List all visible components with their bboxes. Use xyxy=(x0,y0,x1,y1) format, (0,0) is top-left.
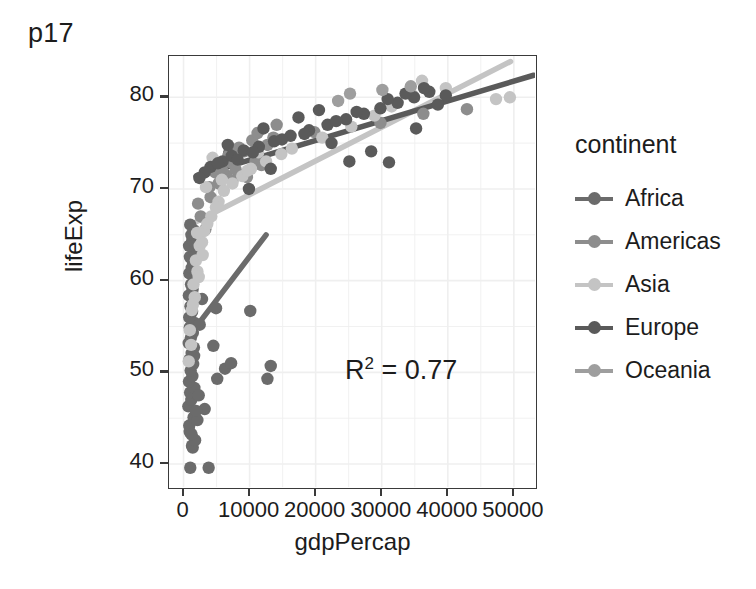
data-point-asia xyxy=(216,174,228,186)
data-point-europe xyxy=(330,115,342,127)
plot-panel xyxy=(168,55,537,489)
data-point-asia xyxy=(191,227,203,239)
x-axis-tick-mark xyxy=(380,488,382,496)
x-axis-tick-label: 10000 xyxy=(218,497,279,523)
data-point-asia xyxy=(210,201,222,213)
data-point-americas xyxy=(192,197,204,209)
y-axis-tick-label: 60 xyxy=(92,265,154,291)
x-axis-title: gdpPercap xyxy=(168,528,537,556)
legend-item-europe[interactable]: Europe xyxy=(575,306,750,349)
data-point-europe xyxy=(350,106,362,118)
x-axis-tick-label: 30000 xyxy=(350,497,411,523)
legend: continent AfricaAmericasAsiaEuropeOceani… xyxy=(575,130,750,392)
legend-item-label: Americas xyxy=(625,228,721,255)
y-axis-tick-label: 40 xyxy=(92,448,154,474)
r-squared-annotation: R2 = 0.77 xyxy=(345,354,457,386)
x-axis-tick-mark xyxy=(248,488,250,496)
data-point-europe xyxy=(193,172,205,184)
legend-key-icon xyxy=(575,231,613,253)
data-point-europe xyxy=(212,157,224,169)
legend-key-dot xyxy=(588,235,601,248)
x-axis-tick-mark xyxy=(314,488,316,496)
x-axis-tick-mark xyxy=(512,488,514,496)
y-axis-tick-mark xyxy=(160,370,168,372)
data-point-americas xyxy=(417,108,429,120)
legend-key-dot xyxy=(588,364,601,377)
data-point-oceania xyxy=(405,80,417,92)
y-axis-tick-label: 80 xyxy=(92,81,154,107)
legend-item-oceania[interactable]: Oceania xyxy=(575,349,750,392)
data-point-europe xyxy=(365,145,377,157)
y-axis-tick-mark xyxy=(160,279,168,281)
x-axis-tick-label: 20000 xyxy=(284,497,345,523)
y-axis-tick-mark xyxy=(160,95,168,97)
data-point-africa xyxy=(261,373,273,385)
data-point-europe xyxy=(432,98,444,110)
data-point-africa xyxy=(184,462,196,474)
data-point-asia xyxy=(187,298,199,310)
legend-title: continent xyxy=(575,130,750,159)
trend-line-europe xyxy=(196,75,534,176)
trend-lines xyxy=(191,62,534,334)
legend-item-asia[interactable]: Asia xyxy=(575,263,750,306)
data-point-africa xyxy=(210,302,222,314)
r2-exponent: 2 xyxy=(365,354,374,373)
data-point-europe xyxy=(325,137,337,149)
legend-item-label: Oceania xyxy=(625,357,711,384)
chart-figure: p17 4050607080 0100002000030000400005000… xyxy=(0,0,756,589)
data-point-oceania xyxy=(344,87,356,99)
data-point-oceania xyxy=(376,84,388,96)
x-axis-tick-label: 40000 xyxy=(416,497,477,523)
data-point-europe xyxy=(292,111,304,123)
data-point-europe xyxy=(418,82,430,94)
legend-key-icon xyxy=(575,188,613,210)
data-point-asia xyxy=(275,148,287,160)
y-axis-tick-label: 70 xyxy=(92,173,154,199)
data-point-europe xyxy=(383,156,395,168)
y-axis-title: lifeExp xyxy=(60,156,88,316)
x-axis-tick-mark xyxy=(182,488,184,496)
data-point-africa xyxy=(190,405,202,417)
legend-key-dot xyxy=(588,192,601,205)
data-point-asia xyxy=(184,324,196,336)
data-point-europe xyxy=(232,153,244,165)
data-point-asia xyxy=(226,177,238,189)
data-point-africa xyxy=(211,373,223,385)
legend-item-label: Europe xyxy=(625,314,699,341)
data-point-europe xyxy=(222,139,234,151)
legend-item-label: Asia xyxy=(625,271,670,298)
data-point-europe xyxy=(313,104,325,116)
legend-item-africa[interactable]: Africa xyxy=(575,177,750,220)
y-axis-tick-mark xyxy=(160,187,168,189)
legend-item-americas[interactable]: Americas xyxy=(575,220,750,263)
r2-base: R xyxy=(345,355,365,385)
legend-key-dot xyxy=(588,321,601,334)
data-point-africa xyxy=(225,357,237,369)
data-point-europe xyxy=(410,122,422,134)
page-title: p17 xyxy=(28,18,74,49)
x-axis-tick-label: 50000 xyxy=(482,497,543,523)
data-point-europe xyxy=(276,133,288,145)
legend-key-icon xyxy=(575,274,613,296)
data-point-europe xyxy=(247,146,259,158)
data-point-asia xyxy=(504,91,516,103)
data-point-africa xyxy=(202,462,214,474)
data-point-africa xyxy=(185,429,197,441)
legend-item-label: Africa xyxy=(625,185,684,212)
data-point-asia xyxy=(286,142,298,154)
x-axis-tick-labels: 01000020000300004000050000 xyxy=(0,497,756,527)
data-point-asia xyxy=(201,218,213,230)
legend-items: AfricaAmericasAsiaEuropeOceania xyxy=(575,177,750,392)
r2-tail: = 0.77 xyxy=(374,355,457,385)
legend-key-icon xyxy=(575,317,613,339)
data-point-africa xyxy=(193,389,205,401)
data-point-asia xyxy=(241,164,253,176)
data-point-americas xyxy=(270,119,282,131)
legend-key-icon xyxy=(575,360,613,382)
legend-key-dot xyxy=(588,278,601,291)
data-point-asia xyxy=(193,271,205,283)
data-point-asia xyxy=(490,93,502,105)
x-axis-tick-mark xyxy=(446,488,448,496)
data-point-europe xyxy=(257,122,269,134)
data-point-europe xyxy=(243,183,255,195)
